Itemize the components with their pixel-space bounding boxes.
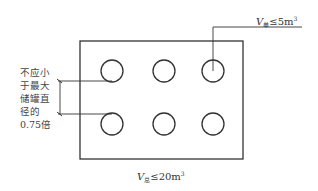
volume-operator: ≤ bbox=[150, 171, 158, 182]
volume-value: 5m bbox=[278, 16, 294, 27]
single-volume-label: V单≤5m3 bbox=[256, 15, 297, 29]
tank-area-boundary bbox=[80, 41, 243, 159]
spacing-note-line: 0.75倍 bbox=[20, 118, 51, 131]
volume-operator: ≤ bbox=[269, 16, 277, 27]
tank-circle-r1c2 bbox=[153, 60, 175, 82]
tank-circle-r2c3 bbox=[202, 113, 224, 135]
tank-circle-r2c2 bbox=[153, 113, 175, 135]
single-volume-leader-line bbox=[213, 27, 302, 71]
spacing-note-line: 储罐直 bbox=[20, 92, 51, 105]
tank-circle-r1c1 bbox=[101, 60, 123, 82]
spacing-note-line: 于最大 bbox=[20, 79, 51, 92]
tank-circle-r2c1 bbox=[101, 113, 123, 135]
volume-value: 20m bbox=[159, 171, 181, 182]
spacing-note-line: 径的 bbox=[20, 105, 51, 118]
spacing-note: 不应小 于最大 储罐直 径的 0.75倍 bbox=[20, 66, 51, 131]
volume-exponent: 3 bbox=[293, 15, 297, 22]
spacing-note-line: 不应小 bbox=[20, 66, 51, 79]
total-volume-label: V总≤20m3 bbox=[137, 170, 185, 184]
volume-exponent: 3 bbox=[181, 170, 185, 177]
